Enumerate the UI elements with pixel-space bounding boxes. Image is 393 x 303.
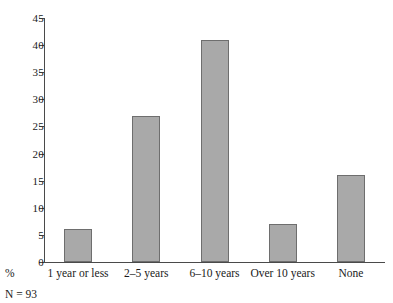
bar xyxy=(64,229,92,262)
y-axis-line xyxy=(44,18,45,263)
bar xyxy=(201,40,229,262)
y-tick-label: 10 xyxy=(10,203,44,214)
y-tick-label: 30 xyxy=(10,94,44,105)
y-tick-row: 20 xyxy=(0,149,44,160)
y-tick-label: 45 xyxy=(10,13,44,24)
y-tick-label: 40 xyxy=(10,40,44,51)
y-tick-row: 25 xyxy=(0,121,44,132)
bar xyxy=(132,116,160,262)
y-tick-label: 35 xyxy=(10,67,44,78)
bar-chart: 051015202530354045 1 year or less2–5 yea… xyxy=(0,0,393,303)
y-tick-row: 10 xyxy=(0,203,44,214)
bar xyxy=(337,175,365,262)
y-tick-row: 40 xyxy=(0,40,44,51)
y-tick-label: 5 xyxy=(10,230,44,241)
y-tick-row: 45 xyxy=(0,13,44,24)
bar xyxy=(269,224,297,262)
y-tick-row: 35 xyxy=(0,67,44,78)
y-tick-row: 30 xyxy=(0,94,44,105)
y-tick-label: 20 xyxy=(10,149,44,160)
sample-size-note: N = 93 xyxy=(5,288,37,301)
axis-unit-prefix: % xyxy=(5,266,15,280)
y-tick-row: 15 xyxy=(0,176,44,187)
y-tick-label: 25 xyxy=(10,121,44,132)
y-tick-label: 15 xyxy=(10,176,44,187)
x-axis-category-label: None xyxy=(311,266,391,280)
x-axis-line xyxy=(44,262,385,263)
y-tick-row: 5 xyxy=(0,230,44,241)
